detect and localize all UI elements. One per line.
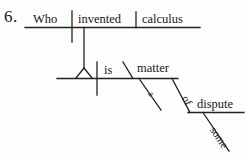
word-object-dispute: dispute — [197, 98, 233, 111]
word-verb-invented: invented — [78, 13, 121, 26]
diagram-page: 6. Who invented calculus is matter dispu… — [0, 0, 246, 154]
predicate-nominative-divider — [123, 62, 133, 79]
word-object-calculus: calculus — [142, 13, 183, 26]
subject-placeholder-left-stroke — [76, 68, 84, 78]
word-subject-who: Who — [33, 13, 57, 26]
exercise-number: 6. — [4, 8, 18, 25]
subject-placeholder-right-stroke — [84, 68, 92, 78]
word-verb-is: is — [104, 64, 112, 77]
word-complement-matter: matter — [137, 62, 169, 75]
